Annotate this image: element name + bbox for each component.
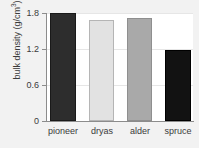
y-tick-label-0.6: 0.6: [26, 81, 39, 90]
y-tick-mark-0: [42, 121, 46, 122]
y-axis-title-tail: ): [12, 0, 22, 3]
x-tick-label-spruce: spruce: [155, 126, 199, 136]
y-tick-label-1.2: 1.2: [26, 45, 39, 54]
y-axis-line: [46, 13, 47, 122]
bar-alder: [127, 18, 152, 121]
y-tick-mark-1.8: [42, 13, 46, 14]
bar-chart-figure: 1.8 1.2 0.6 0 pioneer dryas alder spruce…: [0, 0, 199, 148]
y-axis-title-exponent: 3: [10, 3, 17, 7]
y-tick-label-0: 0: [34, 117, 39, 126]
y-axis-title: bulk density (g/cm3): [10, 0, 22, 92]
bar-pioneer: [50, 13, 76, 121]
y-tick-mark-0.6: [42, 85, 46, 86]
y-tick-mark-1.2: [42, 49, 46, 50]
y-tick-label-1.8: 1.8: [26, 9, 39, 18]
bar-dryas: [89, 20, 114, 121]
x-axis-line: [46, 121, 194, 122]
bar-spruce: [165, 50, 191, 121]
y-axis-title-main: bulk density (g/cm: [12, 7, 22, 80]
